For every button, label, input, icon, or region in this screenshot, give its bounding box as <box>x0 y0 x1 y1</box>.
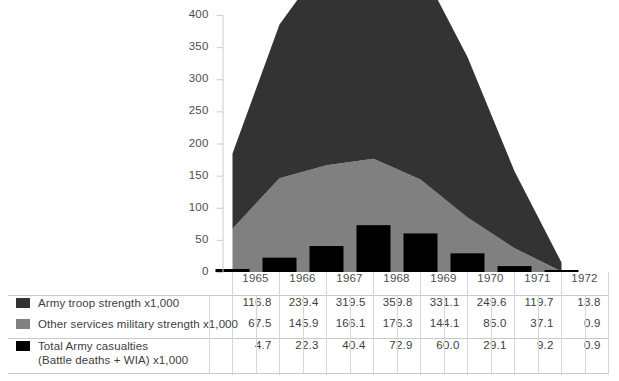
stacked-area-series <box>233 0 562 272</box>
table-row: Total Army casualties(Battle deaths + WI… <box>8 339 608 376</box>
table-column-divider <box>256 295 257 373</box>
y-axis <box>217 15 224 273</box>
table-header-year: 1965 <box>232 272 279 296</box>
table-header-row: 19651966196719681969197019711972 <box>8 272 608 296</box>
data-table: 19651966196719681969197019711972Army tro… <box>8 272 609 375</box>
table-column-divider <box>444 295 445 373</box>
casualty-bar <box>404 233 438 272</box>
legend-color-swatch-icon <box>16 319 30 329</box>
casualty-bar <box>357 225 391 272</box>
casualty-bar <box>310 246 344 272</box>
legend-label: Total Army casualties(Battle deaths + WI… <box>38 339 188 367</box>
table-row: Army troop strength x1,000116.8239.4319.… <box>8 296 608 318</box>
y-axis-tick-label: 250 <box>175 105 209 117</box>
table-header-year: 1971 <box>514 272 561 296</box>
y-axis-tick-label: 400 <box>175 9 209 21</box>
legend-color-swatch-icon <box>16 298 30 308</box>
legend-label: Army troop strength x1,000 <box>38 296 179 310</box>
table-column-divider <box>350 295 351 373</box>
table-header-year: 1969 <box>420 272 467 296</box>
y-axis-tick-label: 100 <box>175 202 209 214</box>
table-row: Other services military strength x1,0006… <box>8 317 608 339</box>
legend-entry: Other services military strength x1,000 <box>8 317 232 339</box>
legend-entry-inner: Other services military strength x1,000 <box>16 317 232 331</box>
table-header-year: 1970 <box>467 272 514 296</box>
table-bottom-rule <box>8 373 608 374</box>
legend-entry-inner: Total Army casualties(Battle deaths + WI… <box>16 339 232 367</box>
table-header-year: 1967 <box>326 272 373 296</box>
data-table-legend: 19651966196719681969197019711972Army tro… <box>8 272 608 375</box>
legend-entry: Total Army casualties(Battle deaths + WI… <box>8 339 232 376</box>
legend-entry: Army troop strength x1,000 <box>8 296 232 318</box>
casualty-bar <box>263 258 297 272</box>
table-column-divider <box>538 295 539 373</box>
legend-entry-inner: Army troop strength x1,000 <box>16 296 232 310</box>
table-column-divider <box>303 295 304 373</box>
legend-color-swatch-icon <box>16 341 30 351</box>
y-axis-tick-label: 200 <box>175 138 209 150</box>
y-axis-tick-label: 50 <box>175 234 209 246</box>
y-axis-tick-label: 300 <box>175 73 209 85</box>
table-column-divider <box>397 295 398 373</box>
table-column-divider <box>209 295 210 373</box>
casualty-bar <box>451 253 485 272</box>
table-header-year: 1966 <box>279 272 326 296</box>
table-header-year: 1968 <box>373 272 420 296</box>
chart-area: 400350300250200150100500 <box>0 0 619 290</box>
table-header-year: 1972 <box>561 272 608 296</box>
table-header-spacer <box>8 272 232 296</box>
y-axis-tick-label: 350 <box>175 41 209 53</box>
y-axis-tick-label: 150 <box>175 170 209 182</box>
chart-svg <box>0 0 619 290</box>
legend-label-line2: (Battle deaths + WIA) x1,000 <box>38 354 188 366</box>
table-column-divider <box>491 295 492 373</box>
table-column-divider <box>585 295 586 373</box>
